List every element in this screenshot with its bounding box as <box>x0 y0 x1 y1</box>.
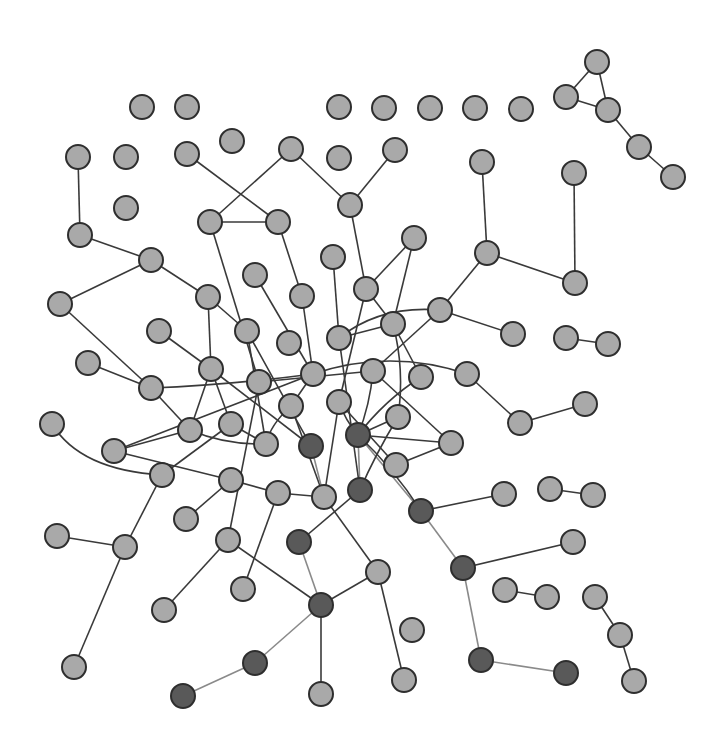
graph-node-n23 <box>68 223 92 247</box>
graph-node-n44 <box>554 326 578 350</box>
graph-node-n15 <box>114 145 138 169</box>
edge-n58-n71 <box>324 402 339 497</box>
graph-node-n47 <box>139 376 163 400</box>
graph-node-n28 <box>321 245 345 269</box>
edge-n16-n25 <box>187 154 278 222</box>
graph-node-n92 <box>400 618 424 642</box>
graph-node-n9 <box>554 85 578 109</box>
graph-node-n6 <box>463 96 487 120</box>
graph-node-n36 <box>354 277 378 301</box>
graph-node-n20 <box>470 150 494 174</box>
graph-node-n8 <box>585 50 609 74</box>
graph-node-n78 <box>45 524 69 548</box>
graph-node-n17 <box>279 137 303 161</box>
graph-node-n99 <box>309 682 333 706</box>
graph-node-n76 <box>174 507 198 531</box>
graph-node-n4 <box>372 96 396 120</box>
graph-node-n75 <box>581 483 605 507</box>
graph-node-n19 <box>383 138 407 162</box>
graph-node-n29 <box>402 226 426 250</box>
graph-node-n42 <box>428 298 452 322</box>
highlighted-node-n95 <box>469 648 493 672</box>
graph-node-n83 <box>366 560 390 584</box>
graph-node-n63 <box>150 463 174 487</box>
graph-node-n89 <box>535 585 559 609</box>
edge-n84-n82 <box>463 542 573 568</box>
graph-node-n100 <box>622 669 646 693</box>
network-graph-canvas <box>0 0 725 748</box>
edge-n79-n93 <box>74 547 125 667</box>
highlighted-node-n94 <box>243 651 267 675</box>
edge-n71-n83 <box>324 497 378 572</box>
graph-node-n33 <box>196 285 220 309</box>
graph-node-n48 <box>199 357 223 381</box>
graph-node-n59 <box>386 405 410 429</box>
graph-node-n45 <box>596 332 620 356</box>
curved-edge-n50-n53 <box>313 361 467 374</box>
highlighted-node-n77 <box>409 499 433 523</box>
graph-node-n40 <box>327 326 351 350</box>
graph-node-n69 <box>219 468 243 492</box>
graph-node-n21 <box>562 161 586 185</box>
graph-node-n1 <box>130 95 154 119</box>
graph-node-n30 <box>475 241 499 265</box>
graph-node-n11 <box>627 135 651 159</box>
graph-node-n13 <box>220 129 244 153</box>
graph-node-n74 <box>538 477 562 501</box>
graph-node-n12 <box>661 165 685 189</box>
graph-node-n41 <box>381 312 405 336</box>
graph-node-n39 <box>277 331 301 355</box>
graph-node-n60 <box>573 392 597 416</box>
graph-node-n71 <box>312 485 336 509</box>
graph-node-n16 <box>175 142 199 166</box>
graph-node-n49 <box>247 370 271 394</box>
highlighted-node-n81 <box>287 530 311 554</box>
graph-node-n18 <box>327 146 351 170</box>
graph-node-n61 <box>508 411 532 435</box>
graph-node-n24 <box>198 210 222 234</box>
graph-node-n43 <box>501 322 525 346</box>
edge-n20-n30 <box>482 162 487 253</box>
graph-node-n50 <box>301 362 325 386</box>
graph-node-n91 <box>608 623 632 647</box>
graph-node-n27 <box>139 248 163 272</box>
graph-node-n31 <box>563 271 587 295</box>
graph-node-n79 <box>113 535 137 559</box>
graph-node-n58 <box>327 390 351 414</box>
graph-node-n5 <box>418 96 442 120</box>
graph-node-n7 <box>509 97 533 121</box>
graph-node-n68 <box>439 431 463 455</box>
graph-node-n51 <box>361 359 385 383</box>
graph-node-n70 <box>266 481 290 505</box>
graph-node-n38 <box>235 319 259 343</box>
graph-node-n55 <box>178 418 202 442</box>
graph-node-n2 <box>175 95 199 119</box>
edge-n80-n85 <box>164 540 228 610</box>
graph-node-n97 <box>392 668 416 692</box>
graph-node-n85 <box>152 598 176 622</box>
edge-n21-n31 <box>574 173 575 283</box>
graph-node-n62 <box>102 439 126 463</box>
nodes-layer <box>40 50 685 708</box>
graph-node-n80 <box>216 528 240 552</box>
graph-node-n34 <box>243 263 267 287</box>
edge-n84-n95 <box>463 568 481 660</box>
edge-n30-n31 <box>487 253 575 283</box>
graph-node-n14 <box>66 145 90 169</box>
graph-node-n53 <box>455 362 479 386</box>
curved-edge-n41-n59 <box>393 324 401 417</box>
graph-node-n82 <box>561 530 585 554</box>
graph-node-n52 <box>409 365 433 389</box>
graph-node-n10 <box>596 98 620 122</box>
graph-node-n56 <box>219 412 243 436</box>
graph-node-n90 <box>583 585 607 609</box>
highlighted-node-n66 <box>346 423 370 447</box>
highlighted-node-n84 <box>451 556 475 580</box>
edge-n27-n32 <box>60 260 151 304</box>
graph-node-n54 <box>40 412 64 436</box>
graph-node-n86 <box>231 577 255 601</box>
highlighted-node-n72 <box>348 478 372 502</box>
graph-node-n46 <box>76 351 100 375</box>
graph-node-n64 <box>254 432 278 456</box>
graph-node-n22 <box>114 196 138 220</box>
